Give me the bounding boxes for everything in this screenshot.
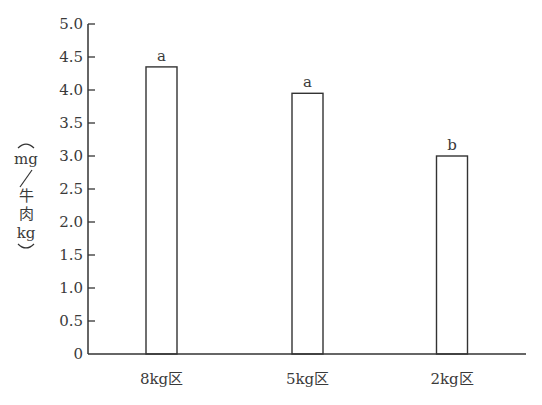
y-axis-ticks: 00.51.01.52.02.53.03.54.04.55.0 [59,15,95,363]
y-tick-label: 2.0 [59,213,83,231]
bar-group: a8kg区 [140,47,183,388]
bar [437,156,468,354]
y-tick-label: 2.5 [59,180,83,198]
y-tick-label: 5.0 [59,15,83,33]
y-tick-label: 4.5 [59,48,83,66]
y-axis-label-part: 牛 [19,187,34,205]
significance-label: b [447,136,457,154]
y-tick-label: 3.5 [59,114,83,132]
y-tick-label: 4.0 [59,81,83,99]
category-label: 2kg区 [430,370,473,388]
bar [146,67,177,354]
significance-label: a [157,47,166,65]
category-label: 8kg区 [140,370,183,388]
bars: a8kg区a5kg区b2kg区 [140,47,474,388]
paren-open-icon [18,144,34,148]
slash-separator [20,170,32,187]
y-tick-label: 0.5 [59,312,83,330]
y-axis-label-part: mg [14,150,38,168]
significance-label: a [303,73,312,91]
y-tick-label: 3.0 [59,147,83,165]
bar [292,93,323,354]
y-axis-label-part: 肉 [19,205,34,223]
y-tick-label: 1.0 [59,279,83,297]
bar-chart: 00.51.01.52.02.53.03.54.04.55.0 a8kg区a5k… [0,0,542,405]
y-tick-label: 0 [73,345,83,363]
category-label: 5kg区 [286,370,329,388]
bar-group: a5kg区 [286,73,329,388]
y-tick-label: 1.5 [59,246,83,264]
paren-close-icon [18,244,34,248]
y-axis-label-part: kg [17,224,36,242]
y-axis-label: mg牛肉kg [14,144,38,248]
bar-group: b2kg区 [430,136,473,388]
